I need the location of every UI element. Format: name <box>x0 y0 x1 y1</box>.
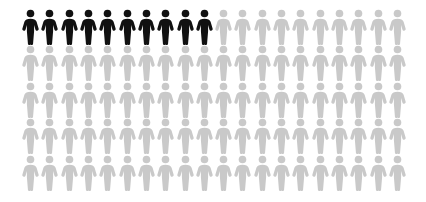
pictogram-cell <box>98 155 117 191</box>
pictogram-cell <box>272 9 291 45</box>
pictogram-cell <box>98 45 117 81</box>
pictogram-cell <box>79 45 98 81</box>
pictogram-cell <box>233 155 252 191</box>
person-icon <box>273 155 290 191</box>
person-icon <box>119 9 136 45</box>
person-icon <box>99 45 116 81</box>
person-icon <box>234 9 251 45</box>
pictogram-cell <box>253 155 272 191</box>
person-icon <box>41 155 58 191</box>
person-icon <box>177 155 194 191</box>
pictogram-chart <box>0 0 426 202</box>
pictogram-cell <box>233 9 252 45</box>
person-icon <box>331 9 348 45</box>
person-icon <box>138 45 155 81</box>
person-icon <box>312 9 329 45</box>
pictogram-cell <box>349 45 368 81</box>
pictogram-cell <box>388 118 407 154</box>
person-icon <box>80 82 97 118</box>
person-icon <box>292 9 309 45</box>
person-icon <box>370 155 387 191</box>
pictogram-cell <box>291 82 310 118</box>
pictogram-cell <box>233 118 252 154</box>
pictogram-cell <box>349 82 368 118</box>
pictogram-cell <box>79 9 98 45</box>
pictogram-cell <box>291 118 310 154</box>
person-icon <box>254 45 271 81</box>
person-icon <box>41 45 58 81</box>
person-icon <box>215 45 232 81</box>
pictogram-cell <box>117 118 136 154</box>
person-icon <box>196 118 213 154</box>
pictogram-cell <box>156 82 175 118</box>
pictogram-cell <box>156 155 175 191</box>
pictogram-cell <box>330 82 349 118</box>
person-icon <box>234 82 251 118</box>
person-icon <box>61 9 78 45</box>
person-icon <box>292 82 309 118</box>
pictogram-cell <box>214 118 233 154</box>
person-icon <box>350 45 367 81</box>
person-icon <box>273 118 290 154</box>
pictogram-cell <box>137 45 156 81</box>
pictogram-cell <box>388 155 407 191</box>
person-icon <box>177 82 194 118</box>
pictogram-cell <box>40 155 59 191</box>
pictogram-cell <box>60 82 79 118</box>
person-icon <box>215 155 232 191</box>
pictogram-cell <box>156 45 175 81</box>
person-icon <box>196 45 213 81</box>
person-icon <box>350 9 367 45</box>
person-icon <box>119 155 136 191</box>
pictogram-cell <box>117 45 136 81</box>
pictogram-cell <box>21 45 40 81</box>
person-icon <box>389 118 406 154</box>
person-icon <box>157 45 174 81</box>
pictogram-cell <box>388 82 407 118</box>
person-icon <box>331 118 348 154</box>
person-icon <box>312 155 329 191</box>
person-icon <box>41 82 58 118</box>
person-icon <box>138 155 155 191</box>
pictogram-cell <box>60 9 79 45</box>
pictogram-cell <box>310 155 329 191</box>
person-icon <box>215 82 232 118</box>
pictogram-cell <box>175 118 194 154</box>
pictogram-cell <box>214 9 233 45</box>
pictogram-cell <box>137 9 156 45</box>
person-icon <box>389 9 406 45</box>
person-icon <box>99 155 116 191</box>
pictogram-cell <box>253 45 272 81</box>
pictogram-cell <box>368 118 387 154</box>
person-icon <box>370 118 387 154</box>
person-icon <box>22 9 39 45</box>
person-icon <box>177 45 194 81</box>
person-icon <box>157 118 174 154</box>
person-icon <box>80 118 97 154</box>
person-icon <box>370 9 387 45</box>
person-icon <box>370 45 387 81</box>
person-icon <box>80 9 97 45</box>
pictogram-cell <box>175 155 194 191</box>
person-icon <box>254 82 271 118</box>
pictogram-cell <box>21 155 40 191</box>
pictogram-cell <box>60 45 79 81</box>
pictogram-cell <box>156 118 175 154</box>
pictogram-cell <box>368 155 387 191</box>
person-icon <box>99 82 116 118</box>
person-icon <box>234 45 251 81</box>
pictogram-cell <box>330 45 349 81</box>
person-icon <box>389 45 406 81</box>
pictogram-cell <box>195 82 214 118</box>
pictogram-cell <box>272 118 291 154</box>
pictogram-cell <box>195 9 214 45</box>
person-icon <box>350 82 367 118</box>
pictogram-cell <box>272 155 291 191</box>
person-icon <box>157 155 174 191</box>
pictogram-cell <box>175 82 194 118</box>
pictogram-cell <box>79 155 98 191</box>
pictogram-cell <box>253 82 272 118</box>
pictogram-cell <box>60 155 79 191</box>
pictogram-cell <box>291 45 310 81</box>
pictogram-cell <box>291 155 310 191</box>
